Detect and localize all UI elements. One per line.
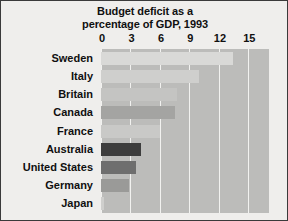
plot-area: [101, 49, 269, 213]
bar-italy: [101, 70, 199, 83]
bar-row: [101, 106, 269, 119]
category-label-britain: Britain: [58, 88, 93, 100]
bar-row: [101, 179, 269, 192]
bar-row: [101, 52, 269, 65]
bar-sweden: [101, 52, 233, 65]
bar-australia: [101, 143, 141, 156]
x-tick-label-9: 9: [187, 32, 193, 44]
bar-germany: [101, 179, 129, 192]
x-tick-label-15: 15: [243, 32, 255, 44]
category-label-sweden: Sweden: [51, 52, 93, 64]
x-tick-label-12: 12: [214, 32, 226, 44]
bar-france: [101, 125, 160, 138]
chart-title: Budget deficit as a percentage of GDP, 1…: [1, 5, 288, 30]
x-tick-label-6: 6: [158, 32, 164, 44]
x-axis-tick-labels: 03691215: [101, 32, 269, 46]
category-label-italy: Italy: [71, 70, 93, 82]
x-tick-label-3: 3: [128, 32, 134, 44]
chart-screenshot: Budget deficit as a percentage of GDP, 1…: [0, 0, 288, 221]
category-label-japan: Japan: [61, 197, 93, 209]
chart-title-line-1: Budget deficit as a: [1, 5, 288, 18]
category-label-france: France: [57, 125, 93, 137]
bar-row: [101, 197, 269, 210]
bar-britain: [101, 88, 177, 101]
bar-row: [101, 70, 269, 83]
category-label-united-states: United States: [23, 161, 93, 173]
bar-row: [101, 88, 269, 101]
category-label-canada: Canada: [53, 106, 93, 118]
bar-united-states: [101, 161, 136, 174]
bar-row: [101, 143, 269, 156]
bar-row: [101, 161, 269, 174]
bar-canada: [101, 106, 175, 119]
category-label-germany: Germany: [45, 179, 93, 191]
category-label-australia: Australia: [46, 143, 93, 155]
category-axis-labels: SwedenItalyBritainCanadaFranceAustraliaU…: [1, 49, 97, 213]
bar-row: [101, 125, 269, 138]
bar-japan: [101, 197, 104, 210]
x-tick-label-0: 0: [99, 32, 105, 44]
chart-title-line-2: percentage of GDP, 1993: [1, 18, 288, 31]
bars-layer: [101, 49, 269, 213]
